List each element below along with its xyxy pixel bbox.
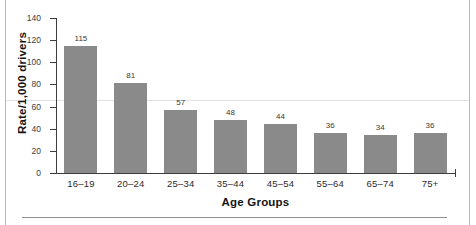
y-tick-label-120: 120 — [27, 36, 41, 44]
y-tick-0: 0 — [50, 173, 56, 174]
bar — [314, 133, 347, 173]
bar-value-label: 115 — [75, 35, 88, 43]
y-tick-label-80: 80 — [32, 80, 41, 88]
bar-value-label: 36 — [326, 122, 335, 130]
bar-value-label: 36 — [426, 122, 435, 130]
x-axis-title: Age Groups — [56, 196, 455, 208]
bar-value-label: 34 — [376, 124, 385, 132]
bar — [64, 46, 97, 173]
x-axis-end-tick — [455, 169, 456, 177]
bar-series: 11581574844363436 — [56, 18, 455, 173]
x-tick-label: 45–54 — [256, 178, 306, 189]
y-tick-label-20: 20 — [32, 147, 41, 155]
x-axis-line — [56, 173, 456, 174]
y-tick-label-0: 0 — [36, 169, 41, 177]
y-tick-label-60: 60 — [32, 103, 41, 111]
bar — [264, 124, 297, 173]
x-axis-tick-labels: 16–1920–2425–3435–4445–5455–6465–7475+ — [56, 178, 455, 189]
x-tick-label: 20–24 — [106, 178, 156, 189]
y-axis-title: Rate/1,000 drivers — [16, 32, 28, 134]
bar-value-label: 44 — [276, 113, 285, 121]
page-bottom-rule — [22, 217, 447, 218]
y-tick-label-40: 40 — [32, 125, 41, 133]
plot-area: 140120100806040200 11581574844363436 — [56, 18, 455, 173]
bar-slot: 115 — [56, 18, 106, 173]
bar-slot: 57 — [156, 18, 206, 173]
y-tick-label-100: 100 — [27, 58, 41, 66]
bar-slot: 36 — [405, 18, 455, 173]
bar — [164, 110, 197, 173]
page-left-rule — [5, 0, 6, 225]
bar-value-label: 48 — [226, 109, 235, 117]
bar-slot: 34 — [355, 18, 405, 173]
x-tick-label: 75+ — [405, 178, 455, 189]
bar — [414, 133, 447, 173]
bar — [114, 83, 147, 173]
bar-slot: 36 — [305, 18, 355, 173]
bar-value-label: 81 — [126, 72, 135, 80]
bar — [214, 120, 247, 173]
chart-page: Rate/1,000 drivers 140120100806040200 11… — [0, 0, 476, 225]
y-tick-label-140: 140 — [27, 14, 41, 22]
x-tick-label: 25–34 — [156, 178, 206, 189]
x-tick-label: 55–64 — [305, 178, 355, 189]
x-tick-label: 16–19 — [56, 178, 106, 189]
bar-value-label: 57 — [176, 99, 185, 107]
page-right-rule — [469, 0, 470, 225]
bar-slot: 81 — [106, 18, 156, 173]
bar-slot: 44 — [256, 18, 306, 173]
x-tick-label: 35–44 — [206, 178, 256, 189]
bar — [364, 135, 397, 173]
bar-slot: 48 — [206, 18, 256, 173]
x-tick-label: 65–74 — [355, 178, 405, 189]
